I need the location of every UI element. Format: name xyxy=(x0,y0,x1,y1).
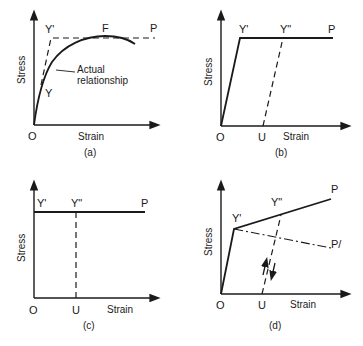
label-origin: O xyxy=(216,299,225,311)
x-axis-label: Strain xyxy=(107,304,133,315)
label-origin: O xyxy=(216,131,225,143)
label-u: U xyxy=(258,131,266,143)
label-origin: O xyxy=(28,130,37,142)
label-p: P xyxy=(328,23,335,35)
elastic-plastic-line xyxy=(221,38,333,126)
x-axis-label: Strain xyxy=(283,131,309,142)
label-p: P xyxy=(331,183,338,195)
strain-softening-line xyxy=(234,229,331,248)
unloading-arrow-icon xyxy=(272,263,275,276)
label-y-double-prime: Y" xyxy=(71,197,82,209)
label-p: P xyxy=(150,22,157,34)
y-axis-label: Stress xyxy=(16,234,27,262)
x-axis-label: Strain xyxy=(78,131,104,142)
y-axis-label: Stress xyxy=(16,56,27,84)
panel-caption: (c) xyxy=(83,320,95,331)
annotation-line1: Actual xyxy=(77,64,105,75)
label-y-prime: Y' xyxy=(45,23,54,35)
annotation-line2: relationship xyxy=(77,75,129,86)
label-f: F xyxy=(102,22,109,34)
label-y: Y xyxy=(45,87,53,99)
panel-b: Y' Y" P O U Strain (b) Stress xyxy=(203,15,346,158)
label-y-prime: Y' xyxy=(239,23,248,35)
label-y-prime: Y' xyxy=(232,212,241,224)
x-axis-label: Strain xyxy=(290,299,316,310)
annotation-leader xyxy=(56,70,75,72)
y-axis-label: Stress xyxy=(203,228,214,256)
unloading-line xyxy=(263,38,283,126)
label-y-prime: Y' xyxy=(37,197,46,209)
y-axis-label: Stress xyxy=(203,58,214,86)
label-u: U xyxy=(72,304,80,316)
label-u: U xyxy=(258,299,266,311)
panel-d: Y' Y" P P/ O U Strain (d) Stress xyxy=(203,183,346,331)
label-origin: O xyxy=(29,304,38,316)
panel-caption: (d) xyxy=(269,320,281,331)
unloading-line xyxy=(262,215,281,294)
label-p: P xyxy=(141,197,148,209)
stress-strain-figure: Y' F P Y Actual relationship O Strain (a… xyxy=(0,0,363,346)
panel-a: Y' F P Y Actual relationship O Strain (a… xyxy=(16,15,157,158)
panel-c: Y' Y" P O U Strain (c) Stress xyxy=(16,185,155,331)
panel-caption: (b) xyxy=(275,147,287,158)
label-y-double-prime: Y" xyxy=(271,196,282,208)
label-y-double-prime: Y" xyxy=(280,23,291,35)
loading-arrow-icon xyxy=(263,262,266,275)
label-p-prime: P/ xyxy=(331,238,342,250)
panel-caption: (a) xyxy=(84,147,96,158)
